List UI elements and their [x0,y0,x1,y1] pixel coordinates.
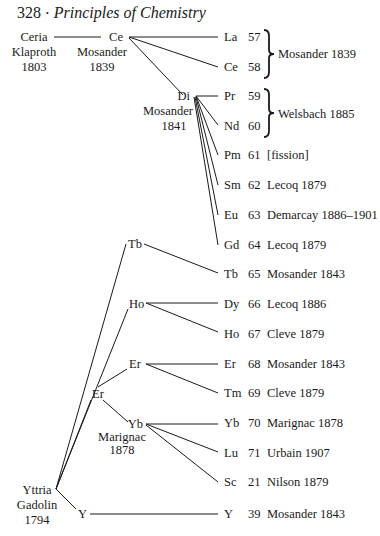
svg-text:Yttria: Yttria [22,483,52,497]
root-ceria: Ceria Klaproth 1803 [12,30,57,74]
svg-text:Pm: Pm [224,148,241,162]
svg-text:Mosander 1843: Mosander 1843 [267,267,345,281]
svg-text:63: 63 [248,208,261,222]
rare-earth-discovery-tree: Mosander 1839 Welsbach 1885 Ceria Klapro… [0,0,380,536]
svg-text:Lecoq 1879: Lecoq 1879 [267,178,326,192]
element-row-ho: Ho67Cleve 1879 [224,327,324,341]
svg-text:Marignac 1878: Marignac 1878 [267,416,343,430]
node-ho: Ho [129,297,144,311]
svg-text:Ce: Ce [109,30,123,44]
svg-text:61: 61 [248,148,261,162]
svg-text:66: 66 [248,297,261,311]
bracket-label-mosander: Mosander 1839 [278,47,356,61]
svg-text:Marignac: Marignac [98,430,146,444]
svg-text:Pr: Pr [224,89,236,103]
svg-text:Sc: Sc [224,475,237,489]
node-er-mid: Er [92,387,105,401]
svg-text:65: 65 [248,267,261,281]
element-row-pm: Pm61[fission] [224,148,309,162]
node-er-upper: Er [129,357,142,371]
element-row-yb: Yb70Marignac 1878 [224,416,343,430]
node-di-mosander: Di Mosander 1841 [143,89,194,133]
root-yttria: Yttria Gadolin 1794 [17,483,58,527]
element-row-gd: Gd64Lecoq 1879 [224,238,326,252]
svg-text:[fission]: [fission] [267,148,309,162]
svg-text:21: 21 [248,475,261,489]
element-row-tb: Tb65Mosander 1843 [224,267,345,281]
element-list: La57 Ce58 Pr59 Nd60 Pm61[fission] Sm62Le… [224,30,378,521]
bracket-mosander-1839 [264,30,274,78]
svg-text:Lecoq 1886: Lecoq 1886 [267,297,326,311]
svg-text:1803: 1803 [22,60,47,74]
element-row-y: Y39Mosander 1843 [224,507,345,521]
svg-text:Tm: Tm [224,386,242,400]
element-row-la: La57 [224,30,261,44]
svg-text:Lu: Lu [224,446,239,460]
svg-text:Ce: Ce [224,60,238,74]
svg-text:Yb: Yb [128,417,143,431]
svg-text:60: 60 [248,119,261,133]
svg-text:Ho: Ho [224,327,239,341]
bracket-welsbach-1885 [264,89,274,137]
element-row-dy: Dy66Lecoq 1886 [224,297,326,311]
element-row-nd: Nd60 [224,119,261,133]
svg-text:1839: 1839 [90,60,115,74]
svg-text:Sm: Sm [224,178,241,192]
element-row-ce: Ce58 [224,60,261,74]
svg-text:69: 69 [248,386,261,400]
svg-text:1878: 1878 [110,443,135,457]
element-row-er: Er68Mosander 1843 [224,357,345,371]
element-row-tm: Tm69Cleve 1879 [224,386,324,400]
svg-text:64: 64 [248,238,261,252]
svg-text:Klaproth: Klaproth [12,45,57,59]
svg-text:Tb: Tb [224,267,238,281]
element-row-sc: Sc21Nilson 1879 [224,475,328,489]
svg-text:57: 57 [248,30,261,44]
element-row-pr: Pr59 [224,89,261,103]
svg-text:71: 71 [248,446,261,460]
bracket-label-welsbach: Welsbach 1885 [278,107,354,121]
element-row-sm: Sm62Lecoq 1879 [224,178,326,192]
svg-text:Cleve 1879: Cleve 1879 [267,386,324,400]
svg-text:Y: Y [224,507,233,521]
svg-text:Yb: Yb [224,416,239,430]
svg-text:Gd: Gd [224,238,240,252]
svg-text:La: La [224,30,238,44]
svg-text:Cleve 1879: Cleve 1879 [267,327,324,341]
svg-text:58: 58 [248,60,261,74]
svg-text:Er: Er [224,357,237,371]
svg-text:70: 70 [248,416,261,430]
svg-text:Mosander 1843: Mosander 1843 [267,357,345,371]
node-tb: Tb [128,237,142,251]
svg-text:62: 62 [248,178,261,192]
svg-text:Eu: Eu [224,208,239,222]
svg-text:59: 59 [248,89,261,103]
svg-text:Di: Di [178,89,191,103]
node-yb-marignac: Yb Marignac 1878 [98,417,146,457]
svg-text:Mosander 1843: Mosander 1843 [267,507,345,521]
svg-text:Mosander: Mosander [77,45,128,59]
svg-text:Urbain 1907: Urbain 1907 [267,446,330,460]
svg-text:67: 67 [248,327,261,341]
svg-text:Ceria: Ceria [20,30,48,44]
element-row-lu: Lu71Urbain 1907 [224,446,330,460]
svg-text:39: 39 [248,507,261,521]
svg-text:Dy: Dy [224,297,240,311]
svg-text:Mosander: Mosander [143,104,194,118]
svg-text:Gadolin: Gadolin [17,498,58,512]
svg-text:68: 68 [248,357,261,371]
svg-text:Demarcay 1886–1901: Demarcay 1886–1901 [267,208,378,222]
svg-text:Lecoq 1879: Lecoq 1879 [267,238,326,252]
svg-text:1794: 1794 [25,513,51,527]
svg-text:1841: 1841 [162,119,187,133]
svg-text:Nilson 1879: Nilson 1879 [267,475,328,489]
element-row-eu: Eu63Demarcay 1886–1901 [224,208,378,222]
svg-text:Nd: Nd [224,119,240,133]
node-y: Y [78,507,87,521]
